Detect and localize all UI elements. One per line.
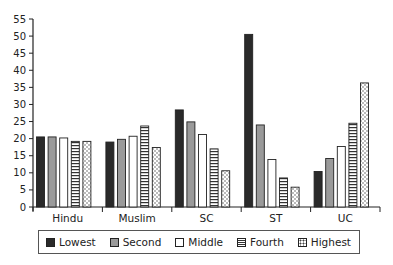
bar-lowest-hindu [37, 137, 45, 207]
legend-label: Highest [311, 236, 351, 248]
bar-fourth-uc [349, 123, 357, 207]
x-category-label: Hindu [52, 212, 83, 224]
legend-label: Middle [188, 236, 223, 248]
x-category-label: Muslim [118, 212, 155, 224]
y-axis: 0510152025303540455055 [13, 14, 33, 213]
bar-fourth-muslim [141, 126, 149, 207]
bar-fourth-sc [210, 149, 218, 207]
bar-highest-muslim [152, 148, 160, 207]
bar-fourth-hindu [71, 141, 79, 207]
bar-middle-hindu [60, 138, 68, 207]
legend-item-second: Second [110, 236, 162, 248]
x-category-label: SC [200, 212, 214, 224]
bar-lowest-sc [175, 110, 183, 207]
bar-lowest-st [245, 34, 253, 207]
legend-swatch-icon [175, 238, 184, 247]
bar-highest-st [291, 187, 299, 207]
legend-label: Fourth [250, 236, 284, 248]
bar-second-sc [187, 122, 195, 207]
x-axis: HinduMuslimSCSTUC [33, 207, 380, 224]
y-tick-label: 10 [13, 167, 26, 178]
y-tick-label: 40 [13, 65, 26, 76]
bar-chart: 0510152025303540455055 HinduMuslimSCSTUC [0, 0, 393, 265]
bar-second-st [256, 125, 264, 207]
bar-middle-uc [337, 146, 345, 207]
legend-item-highest: Highest [298, 236, 351, 248]
bar-middle-muslim [129, 136, 137, 207]
bar-highest-uc [361, 83, 369, 207]
bar-lowest-uc [314, 171, 322, 207]
bar-second-hindu [48, 137, 56, 207]
bar-middle-st [268, 159, 276, 207]
bar-fourth-st [280, 178, 288, 207]
y-tick-label: 5 [20, 184, 26, 195]
legend-label: Second [123, 236, 162, 248]
legend-swatch-icon [298, 238, 307, 247]
bar-highest-sc [222, 171, 230, 207]
legend-item-middle: Middle [175, 236, 223, 248]
y-tick-label: 25 [13, 116, 26, 127]
legend-swatch-icon [237, 238, 246, 247]
bars-group [37, 34, 369, 207]
x-category-label: ST [269, 212, 283, 224]
y-tick-label: 20 [13, 133, 26, 144]
y-tick-label: 45 [13, 48, 26, 59]
y-tick-label: 35 [13, 82, 26, 93]
y-tick-label: 55 [13, 14, 26, 25]
bar-middle-sc [199, 135, 207, 207]
legend-item-fourth: Fourth [237, 236, 284, 248]
y-tick-label: 0 [20, 202, 26, 213]
y-tick-label: 50 [13, 31, 26, 42]
bar-lowest-muslim [106, 142, 114, 207]
legend: Lowest Second Middle Fourth Highest [38, 230, 360, 254]
legend-swatch-icon [110, 238, 119, 247]
bar-second-muslim [118, 139, 126, 207]
legend-swatch-icon [46, 238, 55, 247]
y-tick-label: 30 [13, 99, 26, 110]
y-tick-label: 15 [13, 150, 26, 161]
bar-second-uc [326, 158, 334, 207]
legend-item-lowest: Lowest [46, 236, 96, 248]
bar-highest-hindu [83, 141, 91, 207]
legend-label: Lowest [59, 236, 96, 248]
x-category-label: UC [338, 212, 353, 224]
